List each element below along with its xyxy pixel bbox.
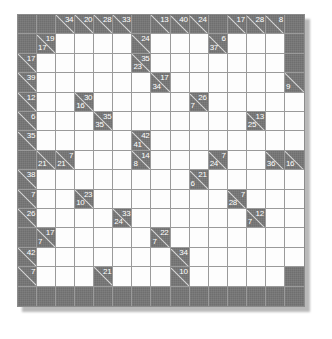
entry-cell[interactable]	[209, 131, 228, 150]
entry-cell[interactable]	[113, 73, 132, 92]
entry-cell[interactable]	[228, 131, 247, 150]
entry-cell[interactable]	[75, 267, 94, 286]
entry-cell[interactable]	[94, 151, 113, 170]
entry-cell[interactable]	[228, 209, 247, 228]
entry-cell[interactable]	[75, 170, 94, 189]
entry-cell[interactable]	[190, 209, 209, 228]
entry-cell[interactable]	[75, 131, 94, 150]
entry-cell[interactable]	[132, 248, 151, 267]
entry-cell[interactable]	[247, 190, 266, 209]
entry-cell[interactable]	[266, 73, 285, 92]
entry-cell[interactable]	[266, 248, 285, 267]
entry-cell[interactable]	[209, 112, 228, 131]
kakuro-grid[interactable]: 3420283313402417288191724637173523391734…	[17, 14, 305, 307]
entry-cell[interactable]	[266, 170, 285, 189]
entry-cell[interactable]	[132, 93, 151, 112]
entry-cell[interactable]	[209, 267, 228, 286]
entry-cell[interactable]	[171, 190, 190, 209]
entry-cell[interactable]	[171, 93, 190, 112]
entry-cell[interactable]	[75, 228, 94, 247]
entry-cell[interactable]	[285, 209, 304, 228]
entry-cell[interactable]	[94, 228, 113, 247]
entry-cell[interactable]	[247, 93, 266, 112]
entry-cell[interactable]	[228, 228, 247, 247]
entry-cell[interactable]	[190, 34, 209, 53]
entry-cell[interactable]	[113, 267, 132, 286]
entry-cell[interactable]	[56, 131, 75, 150]
entry-cell[interactable]	[266, 228, 285, 247]
entry-cell[interactable]	[94, 190, 113, 209]
entry-cell[interactable]	[75, 209, 94, 228]
entry-cell[interactable]	[228, 112, 247, 131]
entry-cell[interactable]	[266, 131, 285, 150]
entry-cell[interactable]	[75, 151, 94, 170]
entry-cell[interactable]	[56, 34, 75, 53]
entry-cell[interactable]	[113, 151, 132, 170]
entry-cell[interactable]	[266, 34, 285, 53]
entry-cell[interactable]	[209, 228, 228, 247]
entry-cell[interactable]	[56, 112, 75, 131]
entry-cell[interactable]	[113, 248, 132, 267]
entry-cell[interactable]	[113, 228, 132, 247]
entry-cell[interactable]	[94, 93, 113, 112]
entry-cell[interactable]	[285, 131, 304, 150]
entry-cell[interactable]	[37, 267, 56, 286]
entry-cell[interactable]	[209, 73, 228, 92]
entry-cell[interactable]	[151, 267, 170, 286]
entry-cell[interactable]	[56, 190, 75, 209]
entry-cell[interactable]	[151, 93, 170, 112]
entry-cell[interactable]	[132, 228, 151, 247]
entry-cell[interactable]	[171, 170, 190, 189]
entry-cell[interactable]	[75, 248, 94, 267]
entry-cell[interactable]	[209, 190, 228, 209]
entry-cell[interactable]	[266, 267, 285, 286]
entry-cell[interactable]	[75, 73, 94, 92]
entry-cell[interactable]	[190, 248, 209, 267]
entry-cell[interactable]	[247, 54, 266, 73]
entry-cell[interactable]	[56, 54, 75, 73]
entry-cell[interactable]	[94, 209, 113, 228]
entry-cell[interactable]	[151, 112, 170, 131]
entry-cell[interactable]	[94, 73, 113, 92]
entry-cell[interactable]	[113, 54, 132, 73]
entry-cell[interactable]	[56, 93, 75, 112]
entry-cell[interactable]	[113, 112, 132, 131]
entry-cell[interactable]	[228, 54, 247, 73]
entry-cell[interactable]	[190, 151, 209, 170]
entry-cell[interactable]	[247, 131, 266, 150]
entry-cell[interactable]	[132, 170, 151, 189]
entry-cell[interactable]	[151, 151, 170, 170]
entry-cell[interactable]	[209, 170, 228, 189]
entry-cell[interactable]	[94, 131, 113, 150]
entry-cell[interactable]	[228, 151, 247, 170]
entry-cell[interactable]	[37, 170, 56, 189]
entry-cell[interactable]	[37, 54, 56, 73]
entry-cell[interactable]	[37, 73, 56, 92]
entry-cell[interactable]	[56, 170, 75, 189]
entry-cell[interactable]	[151, 54, 170, 73]
entry-cell[interactable]	[113, 34, 132, 53]
entry-cell[interactable]	[56, 248, 75, 267]
entry-cell[interactable]	[113, 190, 132, 209]
entry-cell[interactable]	[56, 209, 75, 228]
entry-cell[interactable]	[266, 93, 285, 112]
entry-cell[interactable]	[228, 93, 247, 112]
entry-cell[interactable]	[37, 131, 56, 150]
entry-cell[interactable]	[247, 228, 266, 247]
entry-cell[interactable]	[113, 131, 132, 150]
entry-cell[interactable]	[37, 248, 56, 267]
entry-cell[interactable]	[209, 54, 228, 73]
entry-cell[interactable]	[247, 34, 266, 53]
entry-cell[interactable]	[151, 190, 170, 209]
entry-cell[interactable]	[209, 93, 228, 112]
entry-cell[interactable]	[75, 54, 94, 73]
entry-cell[interactable]	[190, 228, 209, 247]
entry-cell[interactable]	[190, 54, 209, 73]
entry-cell[interactable]	[132, 73, 151, 92]
entry-cell[interactable]	[151, 131, 170, 150]
entry-cell[interactable]	[75, 112, 94, 131]
entry-cell[interactable]	[228, 34, 247, 53]
entry-cell[interactable]	[190, 267, 209, 286]
entry-cell[interactable]	[228, 267, 247, 286]
entry-cell[interactable]	[228, 170, 247, 189]
